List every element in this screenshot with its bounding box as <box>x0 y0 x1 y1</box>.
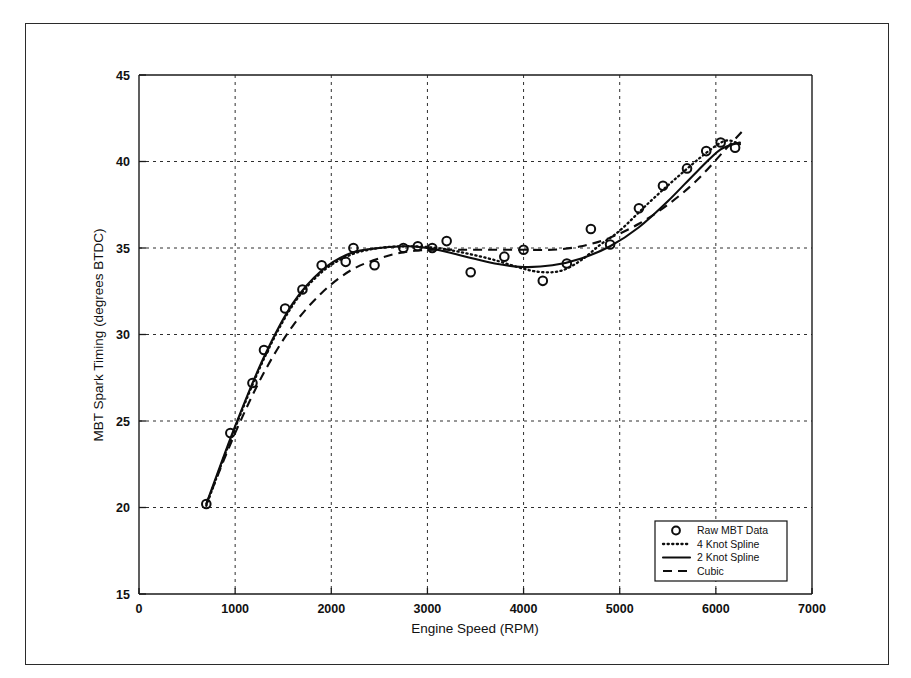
data-point-marker <box>370 261 379 270</box>
x-tick-label: 3000 <box>414 602 442 616</box>
x-tick-label: 2000 <box>317 602 345 616</box>
legend-label: 4 Knot Spline <box>697 538 760 550</box>
x-tick-label: 0 <box>136 602 143 616</box>
data-point-marker <box>539 277 548 286</box>
y-tick-label: 20 <box>116 501 130 515</box>
data-point-marker <box>281 304 290 313</box>
data-point-marker <box>341 258 350 267</box>
data-point-marker <box>500 252 509 261</box>
mbt-spark-timing-chart: 0100020003000400050006000700015202530354… <box>0 0 911 678</box>
figure-page: 0100020003000400050006000700015202530354… <box>0 0 911 678</box>
data-point-marker <box>683 164 692 173</box>
data-point-marker <box>659 181 668 190</box>
x-tick-label: 4000 <box>510 602 538 616</box>
y-tick-label: 15 <box>116 588 130 602</box>
x-tick-label: 1000 <box>221 602 249 616</box>
x-tick-label: 6000 <box>702 602 730 616</box>
data-point-marker <box>317 261 326 270</box>
legend-label: Raw MBT Data <box>697 524 768 536</box>
legend-label: Cubic <box>697 565 724 577</box>
data-point-marker <box>635 204 644 213</box>
data-point-marker <box>466 268 475 277</box>
y-tick-label: 35 <box>116 242 130 256</box>
x-axis-title: Engine Speed (RPM) <box>411 621 539 636</box>
y-tick-label: 25 <box>116 415 130 429</box>
x-tick-label: 7000 <box>798 602 826 616</box>
data-point-marker <box>702 147 711 156</box>
y-axis-title: MBT Spark Timing (degrees BTDC) <box>91 229 106 442</box>
series-line-solid <box>206 142 740 504</box>
x-tick-label: 5000 <box>606 602 634 616</box>
chart-legend[interactable]: Raw MBT Data4 Knot Spline2 Knot SplineCu… <box>655 521 787 581</box>
legend-label: 2 Knot Spline <box>697 551 760 563</box>
data-point-marker <box>587 225 596 234</box>
data-point-marker <box>442 237 451 246</box>
y-tick-label: 45 <box>116 69 130 83</box>
series-line-dashed <box>206 129 744 504</box>
series-line-dotted <box>206 140 740 505</box>
y-tick-label: 40 <box>116 155 130 169</box>
data-series-layer <box>206 129 744 506</box>
y-tick-label: 30 <box>116 328 130 342</box>
